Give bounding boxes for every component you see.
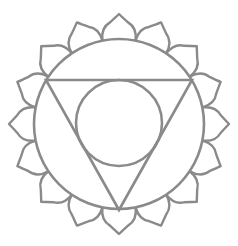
petal xyxy=(40,171,72,203)
petal xyxy=(190,74,221,108)
petal xyxy=(17,141,48,175)
petal xyxy=(202,107,229,141)
petal xyxy=(136,195,170,226)
petal xyxy=(166,45,198,77)
petal xyxy=(17,74,48,108)
petal xyxy=(69,195,103,226)
petal xyxy=(40,45,72,77)
petal xyxy=(102,14,136,41)
petal xyxy=(9,107,36,141)
chakra-symbol xyxy=(0,0,238,246)
petal xyxy=(190,141,221,175)
petal xyxy=(136,22,170,53)
inner-circle xyxy=(76,80,162,166)
outer-circle xyxy=(34,39,204,209)
lotus-petals xyxy=(9,14,229,234)
petal xyxy=(166,171,198,203)
petal xyxy=(69,22,103,53)
